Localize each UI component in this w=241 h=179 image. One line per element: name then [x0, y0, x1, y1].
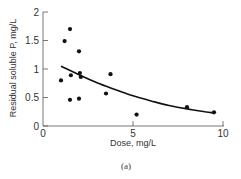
data-point [59, 78, 63, 82]
data-point [135, 113, 139, 117]
data-points [59, 27, 216, 117]
data-point [108, 72, 112, 76]
data-point [212, 110, 216, 114]
y-tick-label: 0 [33, 121, 39, 132]
x-tick-label: 10 [217, 128, 229, 139]
x-ticks: 0510 [40, 121, 229, 139]
y-tick-label: 1.5 [25, 35, 39, 46]
data-point [78, 71, 82, 75]
x-axis-label: Dose, mg/L [110, 138, 156, 148]
data-point [63, 39, 67, 43]
data-point [69, 73, 73, 77]
fitted-curve [61, 66, 214, 113]
y-axis-label: Residual soluble P, mg/L [8, 19, 18, 117]
scatter-chart: 00.511.52 0510 Dose, mg/L Residual solub… [0, 0, 241, 179]
y-tick-label: 2 [33, 7, 39, 18]
data-point [68, 98, 72, 102]
figure-caption: (a) [121, 161, 131, 171]
data-point [104, 91, 108, 95]
y-tick-label: 0.5 [25, 92, 39, 103]
x-tick-label: 0 [40, 128, 46, 139]
data-point [79, 75, 83, 79]
data-point [68, 27, 72, 31]
y-tick-label: 1 [33, 64, 39, 75]
data-point [77, 49, 81, 53]
data-point [77, 97, 81, 101]
y-ticks: 00.511.52 [25, 7, 48, 132]
data-point [185, 105, 189, 109]
